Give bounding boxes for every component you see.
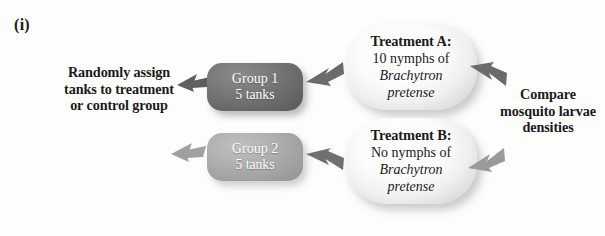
- arrow-treatment-b-to-compare-icon: [468, 140, 508, 172]
- group-2-label: Group 2: [232, 141, 278, 157]
- treatment-a-species-genus: Brachytron: [379, 67, 442, 84]
- group-1-box: Group 1 5 tanks: [207, 63, 303, 111]
- arrow-group-2-to-treatment-b-icon: [306, 148, 346, 176]
- arrow-start-to-group-1-icon: [177, 68, 211, 92]
- treatment-b-species-genus: Brachytron: [379, 161, 442, 178]
- treatment-b-box: Treatment B: No nymphs of Brachytron pre…: [345, 118, 477, 204]
- treatment-b-detail: No nymphs of: [371, 144, 451, 161]
- treatment-b-title: Treatment B:: [371, 127, 452, 144]
- group-1-tanks: 5 tanks: [236, 87, 275, 103]
- group-1-label: Group 1: [232, 71, 278, 87]
- group-2-tanks: 5 tanks: [236, 157, 275, 173]
- panel-label: (i): [14, 16, 30, 34]
- treatment-a-box: Treatment A: 10 nymphs of Brachytron pre…: [345, 24, 477, 110]
- end-step-text: Compare mosquito larvae densities: [495, 86, 601, 136]
- treatment-a-species-epithet: pretense: [388, 84, 435, 101]
- treatment-b-species-epithet: pretense: [388, 178, 435, 195]
- treatment-a-detail: 10 nymphs of: [373, 50, 450, 67]
- start-step-text: Randomly assign tanks to treatment or co…: [58, 64, 180, 114]
- experimental-design-figure: (i) Randomly assign tanks to treatment o…: [0, 0, 605, 236]
- treatment-a-title: Treatment A:: [371, 33, 452, 50]
- arrow-start-to-group-2-icon: [171, 138, 207, 162]
- group-2-box: Group 2 5 tanks: [207, 133, 303, 181]
- arrow-group-1-to-treatment-a-icon: [306, 56, 346, 86]
